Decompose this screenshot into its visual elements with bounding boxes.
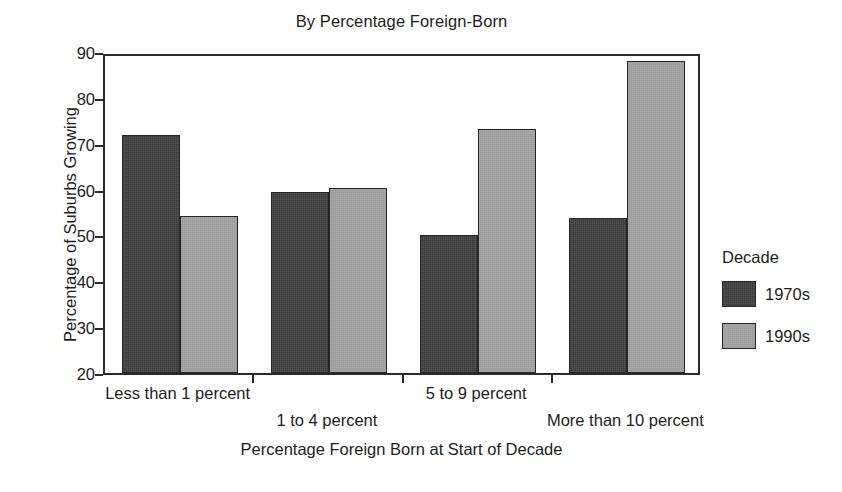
bar-1970s-group-3 [420, 235, 478, 373]
y-tick-label: 40 [51, 274, 95, 291]
plot-area [103, 54, 700, 375]
legend-swatch-icon [722, 323, 756, 349]
y-tick-70 [95, 145, 103, 147]
y-tick-label: 50 [51, 228, 95, 245]
y-tick-label: 20 [51, 366, 95, 383]
x-tick [551, 375, 553, 383]
x-category-label: 5 to 9 percent [426, 384, 527, 403]
y-tick-label: 70 [51, 137, 95, 154]
legend-title: Decade [722, 248, 842, 267]
x-tick [252, 375, 254, 383]
legend-entry-1970s[interactable]: 1970s [722, 281, 842, 307]
y-tick-label: 60 [51, 183, 95, 200]
y-tick-20 [95, 374, 103, 376]
x-category-label: More than 10 percent [547, 411, 704, 430]
bar-1990s-group-4 [627, 61, 685, 373]
y-tick-label: 90 [51, 45, 95, 62]
x-category-label: Less than 1 percent [105, 384, 250, 403]
chart-title: By Percentage Foreign-Born [103, 12, 700, 31]
x-category-label: 1 to 4 percent [276, 411, 377, 430]
bars-layer [105, 56, 698, 373]
y-tick-80 [95, 99, 103, 101]
y-tick-60 [95, 191, 103, 193]
y-tick-label: 30 [51, 320, 95, 337]
bar-1990s-group-1 [180, 216, 238, 373]
y-tick-30 [95, 328, 103, 330]
bar-1970s-group-4 [569, 218, 627, 373]
legend-entries: 1970s1990s [722, 281, 842, 349]
legend: Decade 1970s1990s [722, 248, 842, 365]
x-tick [402, 375, 404, 383]
legend-label: 1970s [765, 285, 810, 304]
legend-label: 1990s [765, 327, 810, 346]
y-tick-40 [95, 282, 103, 284]
legend-swatch-icon [722, 281, 756, 307]
x-axis-title: Percentage Foreign Born at Start of Deca… [103, 440, 700, 459]
bar-1990s-group-2 [329, 188, 387, 373]
y-tick-label: 80 [51, 91, 95, 108]
legend-entry-1990s[interactable]: 1990s [722, 323, 842, 349]
y-axis-title: Percentage of Suburbs Growing [61, 60, 80, 390]
bar-1990s-group-3 [478, 129, 536, 373]
y-tick-50 [95, 236, 103, 238]
bar-1970s-group-2 [271, 192, 329, 373]
y-tick-90 [95, 53, 103, 55]
chart-figure: By Percentage Foreign-Born Percentage of… [0, 0, 842, 492]
bar-1970s-group-1 [122, 135, 180, 373]
